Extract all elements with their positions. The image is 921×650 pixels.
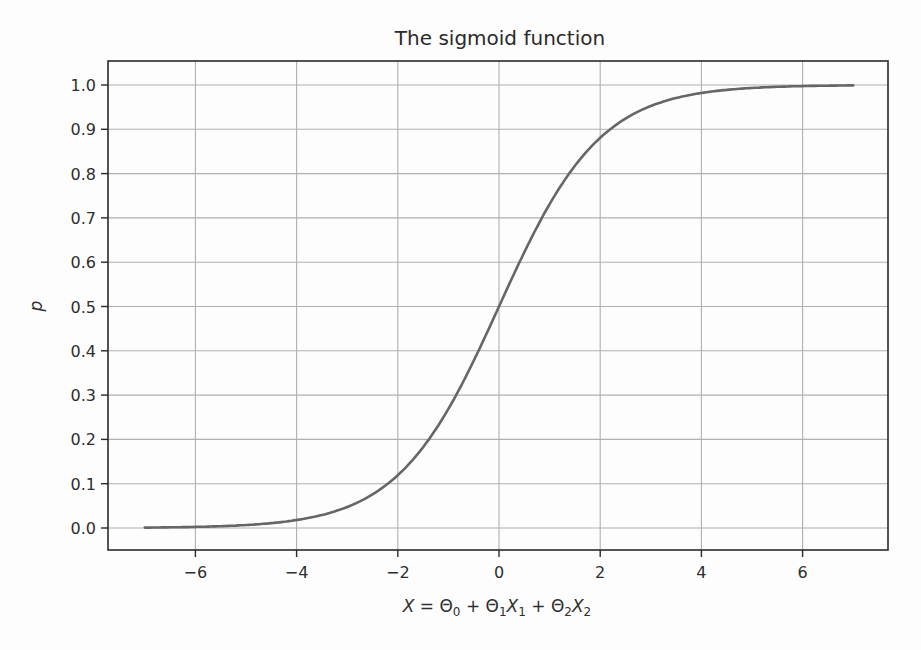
y-tick-label: 0.7 xyxy=(71,209,96,228)
y-axis-label: p xyxy=(26,300,46,312)
x-tick-label: 4 xyxy=(696,563,706,582)
y-tick-label: 0.2 xyxy=(71,430,96,449)
y-tick-label: 1.0 xyxy=(71,76,96,95)
x-tick-label: −6 xyxy=(184,563,208,582)
grid-lines xyxy=(108,61,888,550)
plot-area xyxy=(108,61,888,550)
y-tick-label: 0.1 xyxy=(71,475,96,494)
sigmoid-chart: The sigmoid function −6−4−20246 0.00.10.… xyxy=(0,0,921,650)
y-axis-ticks: 0.00.10.20.30.40.50.60.70.80.91.0 xyxy=(71,76,108,538)
y-tick-label: 0.6 xyxy=(71,253,96,272)
y-tick-label: 0.9 xyxy=(71,120,96,139)
x-axis-label: X = Θ0 + Θ1X1 + Θ2X2 xyxy=(402,596,591,619)
y-tick-label: 0.0 xyxy=(71,519,96,538)
x-tick-label: 0 xyxy=(494,563,504,582)
x-tick-label: −4 xyxy=(285,563,309,582)
y-tick-label: 0.4 xyxy=(71,342,96,361)
y-tick-label: 0.5 xyxy=(71,298,96,317)
chart-title: The sigmoid function xyxy=(394,26,605,50)
y-tick-label: 0.3 xyxy=(71,386,96,405)
y-tick-label: 0.8 xyxy=(71,165,96,184)
x-tick-label: 6 xyxy=(798,563,808,582)
x-tick-label: 2 xyxy=(595,563,605,582)
x-tick-label: −2 xyxy=(386,563,410,582)
x-axis-ticks: −6−4−20246 xyxy=(184,550,808,582)
